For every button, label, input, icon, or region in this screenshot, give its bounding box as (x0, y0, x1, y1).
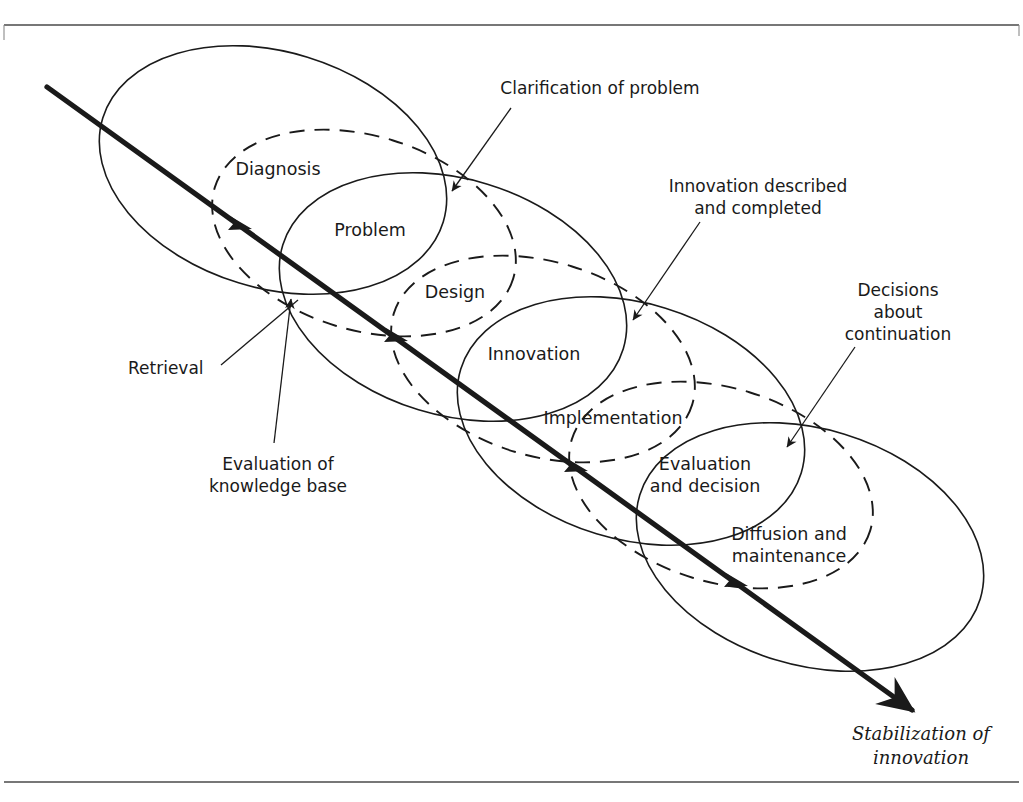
callout-innovation-described-line2: and completed (694, 198, 822, 218)
stage-label-evaluation-and-decision-line1: Evaluation (659, 454, 751, 474)
clarification-of-problem-leader (452, 108, 511, 191)
stage-label-design: Design (425, 282, 485, 302)
process-diagram-canvas: Diagnosis Problem Design Innovation Impl… (0, 0, 1023, 802)
stage-label-evaluation-and-decision-line2: and decision (650, 476, 761, 496)
stage-label-diffusion-line1: Diffusion and (731, 524, 847, 544)
innovation-described-leader (633, 222, 700, 320)
axis-end-label: Stabilization of innovation (852, 723, 993, 768)
stage-labels: Diagnosis Problem Design Innovation Impl… (235, 159, 846, 566)
callout-decisions-line3: continuation (845, 324, 951, 344)
decisions-about-continuation-leader (787, 347, 855, 447)
stage-label-diffusion-line2: maintenance (732, 546, 847, 566)
callout-innovation-described-line1: Innovation described (669, 176, 848, 196)
callout-retrieval: Retrieval (128, 358, 204, 378)
stage-label-innovation: Innovation (488, 344, 581, 364)
stabilization-of-innovation-line2: innovation (873, 747, 969, 768)
stage-label-problem: Problem (334, 220, 406, 240)
evaluation-of-knowledge-base-leader (274, 299, 291, 443)
stage-label-diagnosis: Diagnosis (235, 159, 320, 179)
figure-page: Diagnosis Problem Design Innovation Impl… (0, 0, 1023, 802)
callout-evaluation-knowledge-base-line1: Evaluation of (222, 454, 335, 474)
figure-frame (4, 25, 1019, 782)
stage-label-implementation: Implementation (544, 408, 683, 428)
callout-evaluation-knowledge-base-line2: knowledge base (209, 476, 347, 496)
callout-decisions-line2: about (873, 302, 922, 322)
callout-clarification-of-problem: Clarification of problem (500, 78, 699, 98)
callout-decisions-line1: Decisions (857, 280, 938, 300)
stabilization-of-innovation-line1: Stabilization of (852, 723, 993, 744)
